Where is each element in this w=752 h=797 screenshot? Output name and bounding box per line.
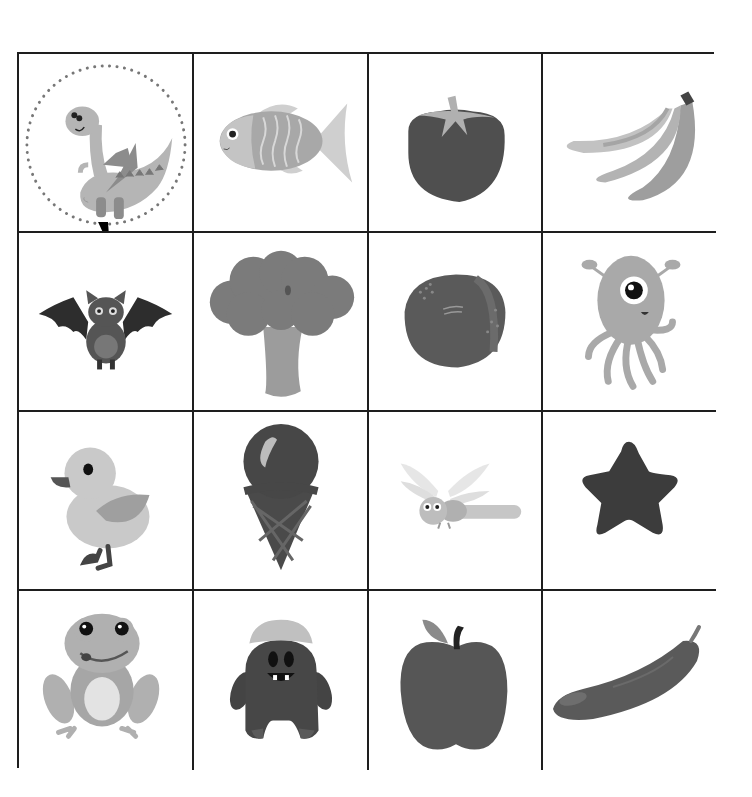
cell-orange[interactable]: orange (369, 233, 543, 412)
cell-dragonfly[interactable]: dragonfly (369, 412, 543, 591)
alien-octopus-icon (543, 233, 716, 410)
frog-icon (19, 591, 192, 770)
duckling-icon (19, 412, 192, 589)
cell-bananas[interactable]: bananas (543, 54, 716, 233)
cell-bat[interactable]: bat (19, 233, 194, 412)
ice-cream-icon (194, 412, 367, 589)
cell-apple[interactable]: apple (369, 591, 543, 770)
cell-star[interactable]: star (543, 412, 716, 591)
cell-tomato[interactable]: tomato (369, 54, 543, 233)
bat-icon (19, 233, 192, 410)
cell-fish[interactable]: fish (194, 54, 369, 233)
cell-cucumber[interactable]: cucumber (543, 591, 716, 770)
star-icon (543, 412, 716, 589)
cell-dragon[interactable]: dragon (19, 54, 194, 233)
bananas-icon (543, 54, 716, 231)
monster-icon (194, 591, 367, 770)
orange-icon (369, 233, 541, 410)
dragon-icon (19, 54, 192, 231)
broccoli-icon (194, 233, 367, 410)
bingo-board: dragon fish (17, 52, 714, 768)
cucumber-icon (543, 591, 716, 770)
cell-broccoli[interactable]: broccoli (194, 233, 369, 412)
cell-ice-cream[interactable]: ice cream cone (194, 412, 369, 591)
tomato-icon (369, 54, 541, 231)
cell-frog[interactable]: frog (19, 591, 194, 770)
cell-monster[interactable]: monster with beanie (194, 591, 369, 770)
cell-alien-octopus[interactable]: alien octopus (543, 233, 716, 412)
dragonfly-icon (369, 412, 541, 589)
fish-icon (194, 54, 367, 231)
cell-duckling[interactable]: duckling (19, 412, 194, 591)
apple-icon (369, 591, 541, 770)
